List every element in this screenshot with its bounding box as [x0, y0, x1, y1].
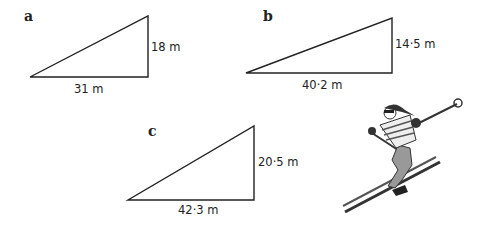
figure-c-label: c — [148, 123, 157, 139]
triangle-b — [246, 18, 392, 73]
figure-a-base: 31 m — [74, 82, 104, 96]
figure-b-label: b — [263, 8, 273, 24]
skier-image — [343, 99, 462, 212]
triangles-diagram — [0, 0, 485, 229]
figure-b-base: 40·2 m — [302, 78, 342, 92]
triangle-c — [128, 126, 254, 200]
figure-c-base: 42·3 m — [178, 203, 218, 217]
figure-c-height: 20·5 m — [258, 155, 298, 169]
figure-a-label: a — [24, 8, 33, 24]
figure-b-height: 14·5 m — [395, 37, 435, 51]
figure-a-height: 18 m — [151, 40, 181, 54]
triangle-a — [30, 16, 148, 77]
